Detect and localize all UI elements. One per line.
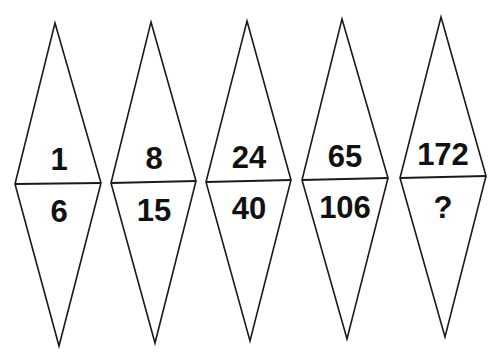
diamond-divider	[15, 183, 101, 184]
diamond-5: 172 ?	[400, 17, 486, 337]
diamond-bottom-number: 15	[137, 193, 171, 228]
diamond-1: 1 6	[15, 23, 101, 346]
diamond-divider	[400, 176, 486, 178]
diamond-top-number: 8	[145, 141, 162, 176]
diamond-divider	[302, 178, 388, 180]
diamond-2: 8 15	[111, 22, 196, 343]
diamond-divider	[206, 180, 291, 182]
diamond-bottom-number: 6	[50, 194, 67, 229]
diamond-bottom-number: 40	[232, 191, 266, 226]
diamond-top-number: 65	[328, 139, 362, 174]
puzzle-canvas: 1 6 8 15 24 40 65 106 172 ?	[0, 0, 500, 359]
diamond-3: 24 40	[206, 21, 291, 341]
diamond-bottom-question: ?	[434, 190, 453, 225]
diamond-top-number: 24	[232, 140, 267, 175]
diamond-4: 65 106	[302, 19, 388, 339]
diamond-divider	[111, 181, 196, 183]
diamond-top-number: 172	[417, 137, 469, 172]
diamond-bottom-number: 106	[319, 190, 371, 225]
diamond-top-number: 1	[50, 142, 67, 177]
